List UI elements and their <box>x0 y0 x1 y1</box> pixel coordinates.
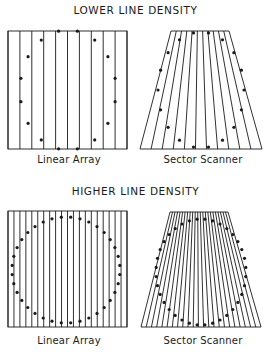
target-dot <box>20 238 23 241</box>
target-dot <box>109 238 112 241</box>
target-dot <box>114 77 117 80</box>
target-dot <box>60 216 63 219</box>
target-dot <box>95 225 98 228</box>
target-dot <box>26 306 29 309</box>
target-dot <box>50 320 53 323</box>
target-dot <box>19 100 22 103</box>
target-dot <box>118 273 121 276</box>
target-dot <box>174 314 177 317</box>
scan-line <box>162 212 180 327</box>
target-dot <box>69 321 72 324</box>
target-dot <box>42 220 45 223</box>
target-dot <box>240 293 243 296</box>
target-dot <box>167 51 170 54</box>
scan-line <box>203 212 209 327</box>
scan-line <box>195 31 197 149</box>
target-dot <box>60 321 63 324</box>
target-dot <box>221 38 224 41</box>
target-dot <box>155 275 158 278</box>
scan-line <box>151 212 175 327</box>
target-dot <box>221 139 224 142</box>
target-dot <box>78 217 81 220</box>
target-dot <box>180 318 183 321</box>
scan-line <box>225 212 255 327</box>
linear-array-higher-density <box>8 211 127 327</box>
target-dot <box>203 323 206 326</box>
scan-line <box>218 31 239 149</box>
target-dot <box>117 255 120 258</box>
target-dot <box>168 233 171 236</box>
scan-line <box>151 31 176 149</box>
scan-line <box>200 212 203 327</box>
target-dot <box>50 217 53 220</box>
target-dot <box>240 108 243 111</box>
target-dot <box>188 322 191 325</box>
target-dot <box>11 264 14 267</box>
target-dot <box>103 231 106 234</box>
target-dot <box>113 291 116 294</box>
target-dot <box>168 308 171 311</box>
target-dot <box>163 240 166 243</box>
target-dot <box>240 69 243 72</box>
target-dot <box>118 264 121 267</box>
target-dot <box>207 31 210 34</box>
scan-line <box>184 31 192 149</box>
target-dot <box>231 233 234 236</box>
target-dot <box>159 69 162 72</box>
target-dot <box>155 266 158 269</box>
target-dot <box>87 316 90 319</box>
target-dot <box>156 88 159 91</box>
target-dot <box>57 147 60 150</box>
target-dot <box>178 139 181 142</box>
target-dot <box>218 222 221 225</box>
target-dot <box>243 284 246 287</box>
target-dot <box>156 257 159 260</box>
target-dot <box>16 246 19 249</box>
target-dot <box>93 138 96 141</box>
target-dot <box>163 301 166 304</box>
sector-scanner-higher-density <box>141 212 261 327</box>
scan-line <box>193 212 195 327</box>
target-dot <box>156 284 159 287</box>
target-dot <box>196 323 199 326</box>
target-dot <box>33 225 36 228</box>
target-dot <box>27 55 30 58</box>
target-dot <box>12 282 15 285</box>
scan-line <box>208 31 218 149</box>
scan-line <box>141 212 170 327</box>
target-dot <box>236 301 239 304</box>
target-dot <box>225 227 228 230</box>
scan-line <box>198 212 199 327</box>
target-dot <box>159 248 162 251</box>
target-dot <box>159 293 162 296</box>
scan-line <box>173 31 187 149</box>
target-dot <box>117 282 120 285</box>
target-dot <box>57 30 60 33</box>
target-dot <box>188 219 191 222</box>
target-dot <box>93 39 96 42</box>
target-dot <box>69 216 72 219</box>
target-dot <box>244 266 247 269</box>
scan-line-diagram <box>0 0 271 363</box>
target-dot <box>232 51 235 54</box>
scan-line <box>140 31 171 149</box>
target-dot <box>113 246 116 249</box>
target-dot <box>76 30 79 33</box>
target-dot <box>167 126 170 129</box>
target-dot <box>203 218 206 221</box>
target-dot <box>192 146 195 149</box>
target-dot <box>178 38 181 41</box>
target-dot <box>103 306 106 309</box>
target-dot <box>78 320 81 323</box>
target-dot <box>231 308 234 311</box>
target-dot <box>174 227 177 230</box>
target-dot <box>109 299 112 302</box>
target-dot <box>11 273 14 276</box>
target-dot <box>232 126 235 129</box>
target-dot <box>225 314 228 317</box>
target-dot <box>40 138 43 141</box>
target-dot <box>42 316 45 319</box>
scan-line <box>203 31 207 149</box>
target-dot <box>207 146 210 149</box>
target-dot <box>240 248 243 251</box>
